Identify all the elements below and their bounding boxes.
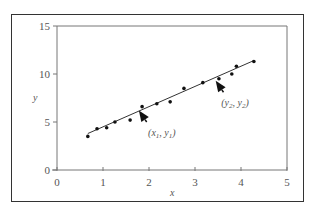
data-point xyxy=(128,118,132,122)
y-tick-label: 5 xyxy=(45,116,51,128)
data-point xyxy=(182,87,186,91)
y-tick-label: 0 xyxy=(45,164,51,176)
arrow-icon xyxy=(139,110,149,122)
y-tick-label: 10 xyxy=(39,68,51,80)
data-point xyxy=(201,81,205,85)
data-point xyxy=(230,72,234,76)
point-annotation: (x1, y1) xyxy=(148,127,176,140)
x-tick-label: 3 xyxy=(192,176,198,188)
tick-labels: 012345051015 xyxy=(39,20,290,188)
x-tick-label: 1 xyxy=(100,176,106,188)
data-point xyxy=(140,105,144,109)
y-axis-label: y xyxy=(32,92,38,103)
data-point xyxy=(95,127,99,131)
x-tick-label: 4 xyxy=(238,176,244,188)
annotations: (x1, y1)(y2, y2) xyxy=(139,81,250,141)
axes xyxy=(52,26,287,171)
data-point xyxy=(105,126,109,130)
x-tick-label: 0 xyxy=(54,176,60,188)
x-axis-label: x xyxy=(169,187,175,198)
data-point xyxy=(168,100,172,104)
data-point xyxy=(217,77,221,81)
x-tick-label: 2 xyxy=(146,176,152,188)
arrow-icon xyxy=(216,81,226,93)
point-annotation: (y2, y2) xyxy=(221,97,249,110)
scatter-chart: 012345051015 (x1, y1)(y2, y2) x y xyxy=(0,0,315,211)
data-point xyxy=(113,120,117,124)
data-point xyxy=(155,102,159,106)
y-tick-label: 15 xyxy=(39,20,51,32)
data-point xyxy=(235,65,239,69)
data-point xyxy=(252,60,256,64)
data-point xyxy=(86,135,90,139)
x-tick-label: 5 xyxy=(284,176,290,188)
